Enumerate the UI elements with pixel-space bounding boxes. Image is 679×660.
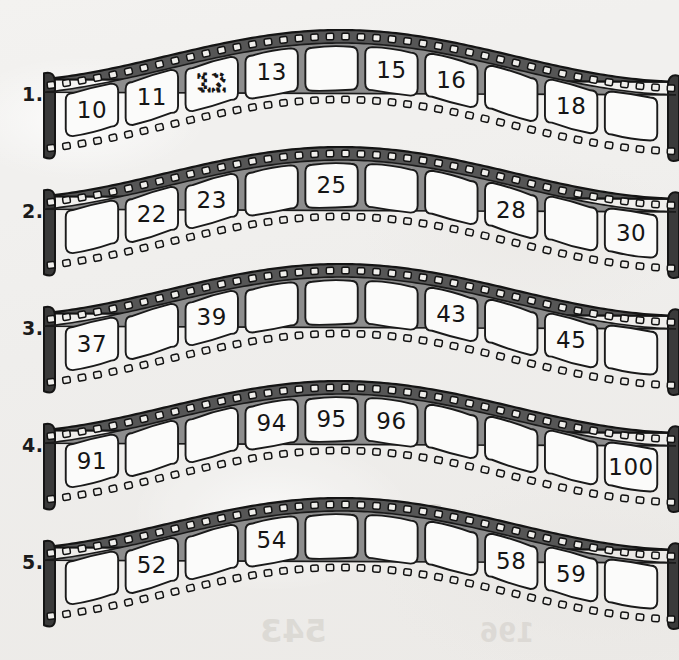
- sprocket-hole: [419, 103, 427, 110]
- sprocket-hole: [233, 106, 241, 114]
- frame-window[interactable]: [305, 514, 357, 559]
- sprocket-hole: [558, 421, 567, 429]
- sprocket-hole: [342, 267, 349, 273]
- sprocket-hole: [124, 598, 133, 606]
- sprocket-hole: [295, 269, 303, 276]
- film-frame[interactable]: [605, 92, 657, 141]
- film-frame[interactable]: 13: [245, 48, 297, 98]
- sprocket-hole: [93, 74, 101, 82]
- sprocket-hole: [217, 397, 226, 405]
- frame-number: 95: [316, 406, 346, 432]
- sprocket-hole: [202, 347, 211, 355]
- film-frame[interactable]: [305, 514, 357, 559]
- filmstrip: 10111213151618: [44, 28, 679, 160]
- sprocket-hole: [496, 406, 505, 414]
- sprocket-hole: [667, 85, 675, 92]
- row-number-label: 2.: [22, 200, 43, 222]
- frame-number: 22: [137, 201, 167, 227]
- sprocket-hole: [171, 471, 180, 479]
- sprocket-hole: [140, 181, 149, 189]
- sprocket-hole: [248, 104, 256, 112]
- sprocket-hole: [512, 293, 521, 301]
- sprocket-hole: [326, 267, 334, 274]
- sprocket-hole: [233, 160, 241, 168]
- frame-window[interactable]: [245, 282, 297, 332]
- frame-window[interactable]: [305, 46, 357, 91]
- film-frame[interactable]: 96: [365, 398, 417, 446]
- frame-number: 18: [556, 93, 586, 119]
- film-frame[interactable]: [245, 282, 297, 332]
- film-frame[interactable]: 15: [365, 47, 417, 95]
- sprocket-hole: [589, 76, 597, 84]
- frame-window[interactable]: [365, 515, 417, 563]
- film-frame[interactable]: [245, 165, 297, 215]
- sprocket-hole: [264, 101, 272, 108]
- sprocket-hole: [574, 73, 582, 81]
- sprocket-hole: [311, 448, 319, 455]
- sprocket-hole: [543, 417, 552, 425]
- sprocket-hole: [620, 81, 628, 88]
- sprocket-hole: [233, 457, 241, 465]
- sprocket-hole: [171, 237, 180, 245]
- film-frame[interactable]: [365, 281, 417, 329]
- frame-number: 16: [436, 67, 466, 93]
- frame-window[interactable]: [605, 560, 657, 609]
- sprocket-hole: [279, 504, 287, 511]
- sprocket-hole: [233, 43, 241, 51]
- sprocket-hole: [264, 389, 272, 396]
- film-frame[interactable]: 30: [605, 209, 657, 258]
- sprocket-hole: [295, 566, 303, 573]
- film-frame[interactable]: 95: [305, 397, 357, 442]
- sprocket-hole: [512, 239, 521, 247]
- sprocket-hole: [574, 253, 582, 261]
- sprocket-hole: [311, 331, 319, 338]
- sprocket-hole: [357, 331, 365, 338]
- sprocket-hole: [620, 315, 628, 322]
- sprocket-hole: [78, 545, 86, 553]
- film-frame[interactable]: 94: [245, 399, 297, 449]
- sprocket-hole: [419, 571, 427, 578]
- sprocket-hole: [419, 454, 427, 461]
- frame-window[interactable]: [365, 164, 417, 212]
- sprocket-hole: [543, 66, 552, 74]
- sprocket-hole: [450, 459, 459, 467]
- sprocket-hole: [496, 352, 505, 360]
- film-frame[interactable]: 100: [605, 443, 657, 492]
- frame-window[interactable]: [305, 280, 357, 325]
- film-frame[interactable]: [365, 515, 417, 563]
- frame-window[interactable]: [605, 326, 657, 375]
- film-frame[interactable]: [365, 164, 417, 212]
- film-frame[interactable]: 54: [245, 516, 297, 566]
- sprocket-hole: [140, 127, 149, 135]
- sprocket-hole: [342, 384, 349, 390]
- sprocket-hole: [248, 392, 256, 400]
- film-frame[interactable]: 25: [305, 163, 357, 208]
- film-frame[interactable]: [305, 280, 357, 325]
- sprocket-hole: [465, 462, 474, 470]
- sprocket-hole: [543, 363, 552, 371]
- sprocket-hole: [109, 71, 118, 79]
- sprocket-hole: [248, 338, 256, 346]
- sprocket-hole: [326, 96, 334, 103]
- sprocket-hole: [47, 432, 55, 439]
- frame-window[interactable]: [245, 165, 297, 215]
- sprocket-hole: [155, 591, 164, 599]
- frame-window[interactable]: [605, 92, 657, 141]
- sprocket-hole: [450, 225, 459, 233]
- sprocket-hole: [512, 356, 521, 364]
- film-frame[interactable]: [605, 560, 657, 609]
- film-frame[interactable]: [605, 326, 657, 375]
- sprocket-hole: [527, 243, 536, 251]
- sprocket-hole: [512, 176, 521, 184]
- sprocket-hole: [481, 583, 490, 591]
- sprocket-hole: [155, 294, 164, 302]
- sprocket-hole: [357, 268, 365, 275]
- sprocket-hole: [652, 552, 660, 559]
- sprocket-hole: [574, 541, 582, 549]
- sprocket-hole: [373, 268, 381, 275]
- sprocket-hole: [78, 77, 86, 85]
- sprocket-hole: [311, 565, 319, 572]
- film-frame[interactable]: [305, 46, 357, 91]
- sprocket-hole: [124, 184, 133, 192]
- frame-window[interactable]: [365, 281, 417, 329]
